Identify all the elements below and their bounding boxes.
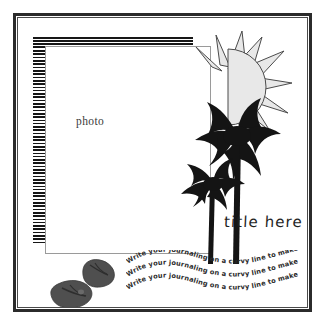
title-placeholder[interactable]: title here [224, 213, 304, 231]
photo-placeholder-label: photo [76, 115, 104, 127]
layout-canvas: photo [18, 18, 307, 307]
flip-flops-icon [46, 256, 126, 307]
scrapbook-page: photo [0, 0, 325, 325]
palm-tree-icon [163, 96, 288, 266]
journaling-lines[interactable]: Write your journaling on a curvy line to… [126, 250, 301, 300]
